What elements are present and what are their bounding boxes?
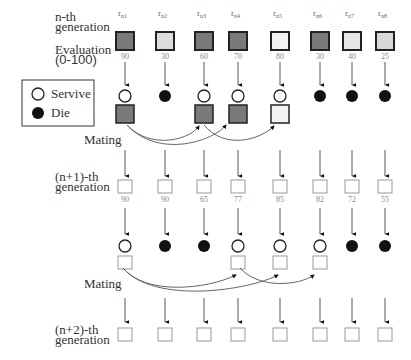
evaluation-value: 25 (381, 52, 389, 61)
chromosome-box (376, 32, 394, 50)
individual-gen-n1: 72 (345, 180, 359, 322)
survive-icon (119, 90, 131, 102)
chromosome-box (313, 180, 327, 193)
die-icon (159, 90, 171, 102)
die-icon (379, 90, 391, 102)
surviving-chromosome-box (313, 256, 327, 269)
survive-icon (232, 90, 244, 102)
evaluation-value: 40 (348, 52, 356, 61)
chromosome-box (378, 180, 392, 193)
chromosome-box-gen-n2 (378, 328, 392, 341)
individual-gen-n: rn190 (116, 8, 134, 176)
generation-n: rn190rn230rn360rn470rn580rn630rn740rn825 (116, 8, 394, 176)
individual-label: rn5 (273, 8, 282, 19)
surviving-chromosome-box (271, 105, 289, 123)
individual-label: rn3 (197, 8, 206, 19)
evaluation-value: 65 (200, 195, 208, 204)
evaluation-value: 90 (121, 52, 129, 61)
chromosome-box (229, 32, 247, 50)
generation-n-plus-2 (118, 328, 392, 341)
label-n1-generation: generation (55, 179, 110, 194)
die-icon (346, 240, 358, 252)
legend-die: Die (51, 105, 70, 120)
die-icon (314, 90, 326, 102)
chromosome-box (273, 180, 287, 193)
evaluation-value: 90 (161, 195, 169, 204)
individual-gen-n: rn230 (156, 8, 174, 176)
label-mating-1: Mating (84, 132, 122, 147)
chromosome-box (158, 180, 172, 193)
individual-gen-n1: 77 (231, 180, 245, 322)
label-nth-generation: generation (55, 19, 110, 34)
individual-gen-n1: 85 (273, 180, 287, 322)
surviving-chromosome-box (118, 256, 132, 269)
ga-diagram: n-th generation Evaluation (0-100) Servi… (0, 0, 411, 360)
surviving-chromosome-box (231, 256, 245, 269)
chromosome-box-gen-n2 (273, 328, 287, 341)
individual-label: rn7 (345, 8, 354, 19)
die-icon (346, 90, 358, 102)
individual-label: rn6 (313, 8, 322, 19)
surviving-chromosome-box (195, 105, 213, 123)
surviving-chromosome-box (116, 105, 134, 123)
chromosome-box (271, 32, 289, 50)
survive-icon (198, 90, 210, 102)
individual-gen-n1: 82 (313, 180, 327, 322)
chromosome-box-gen-n2 (231, 328, 245, 341)
survive-icon (274, 90, 286, 102)
generation-n-plus-1: 9090657785827255 (118, 180, 392, 322)
survive-icon (274, 240, 286, 252)
individual-gen-n1: 90 (158, 180, 172, 322)
individual-gen-n: rn825 (376, 8, 394, 176)
chromosome-box (343, 32, 361, 50)
chromosome-box-gen-n2 (313, 328, 327, 341)
individual-gen-n: rn630 (311, 8, 329, 176)
individual-label: rn2 (158, 8, 167, 19)
evaluation-value: 77 (234, 195, 242, 204)
evaluation-value: 60 (200, 52, 208, 61)
chromosome-box (311, 32, 329, 50)
evaluation-value: 70 (234, 52, 242, 61)
chromosome-box (231, 180, 245, 193)
chromosome-box (195, 32, 213, 50)
evaluation-value: 82 (316, 195, 324, 204)
individual-gen-n1: 90 (118, 180, 132, 322)
surviving-chromosome-box (229, 105, 247, 123)
chromosome-box (197, 180, 211, 193)
survive-icon (314, 240, 326, 252)
survive-icon (119, 240, 131, 252)
chromosome-box-gen-n2 (158, 328, 172, 341)
die-icon (32, 107, 44, 119)
chromosome-box-gen-n2 (197, 328, 211, 341)
individual-gen-n: rn740 (343, 8, 361, 176)
mating-arcs-1 (127, 125, 274, 144)
chromosome-box (116, 32, 134, 50)
individual-gen-n1: 65 (197, 180, 211, 322)
surviving-chromosome-box (273, 256, 287, 269)
survive-icon (232, 240, 244, 252)
individual-gen-n: rn580 (271, 8, 289, 176)
label-evaluation-range: (0-100) (55, 52, 97, 67)
evaluation-value: 90 (121, 195, 129, 204)
individual-label: rn1 (118, 8, 127, 19)
individual-gen-n: rn470 (229, 8, 247, 176)
evaluation-value: 72 (348, 195, 356, 204)
label-mating-2: Mating (84, 276, 122, 291)
evaluation-value: 55 (381, 195, 389, 204)
evaluation-value: 80 (276, 52, 284, 61)
evaluation-value: 30 (161, 52, 169, 61)
survive-icon (32, 88, 44, 100)
chromosome-box (156, 32, 174, 50)
legend-survive: Servive (51, 86, 91, 101)
chromosome-box (345, 180, 359, 193)
chromosome-box (118, 180, 132, 193)
individual-label: rn8 (378, 8, 387, 19)
die-icon (379, 240, 391, 252)
individual-gen-n1: 55 (378, 180, 392, 322)
mating-arcs-2 (123, 268, 314, 291)
chromosome-box-gen-n2 (345, 328, 359, 341)
individual-label: rn4 (231, 8, 240, 19)
label-n2-generation: generation (55, 332, 110, 347)
die-icon (159, 240, 171, 252)
individual-gen-n: rn360 (195, 8, 213, 176)
